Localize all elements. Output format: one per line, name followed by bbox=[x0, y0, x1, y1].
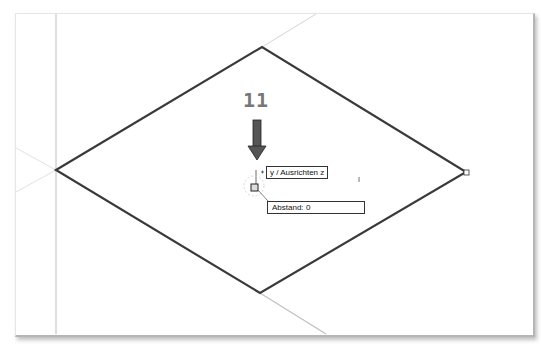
distance-value-input[interactable]: 0 bbox=[306, 202, 310, 213]
distance-input-tooltip[interactable]: Abstand: 0 bbox=[267, 201, 365, 214]
guide-line-top bbox=[262, 14, 316, 47]
distance-label: Abstand: bbox=[272, 203, 304, 212]
endpoint-grip-icon[interactable] bbox=[464, 170, 469, 175]
down-arrow-icon bbox=[248, 120, 266, 160]
snap-marker-icon bbox=[251, 184, 258, 191]
guide-line-bottom bbox=[260, 293, 326, 334]
guide-line-left-b bbox=[16, 170, 56, 192]
step-number-label: 11 bbox=[243, 88, 269, 112]
guide-line-left-a bbox=[16, 148, 56, 170]
diamond-shape[interactable] bbox=[56, 47, 466, 293]
crosshair-cursor-icon bbox=[244, 170, 264, 196]
text-cursor-icon: I bbox=[358, 176, 360, 183]
snap-tooltip: y / Ausrichten z bbox=[266, 166, 328, 179]
tooltip-leader-line bbox=[258, 190, 268, 201]
